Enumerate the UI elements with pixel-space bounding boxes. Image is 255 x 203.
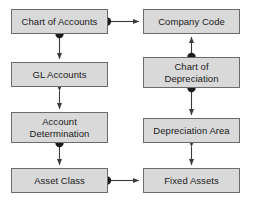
node-company-code-label: Company Code bbox=[156, 16, 227, 28]
node-account-determination-label: Account Determination bbox=[28, 116, 92, 139]
node-asset-class-label: Asset Class bbox=[32, 175, 87, 187]
node-depreciation-area-label: Depreciation Area bbox=[151, 125, 231, 137]
edge-chart-of-depreciation-to-depreciation-area bbox=[187, 84, 195, 115]
node-chart-of-accounts-label: Chart of Accounts bbox=[20, 16, 100, 28]
edge-chart-of-accounts-to-gl-accounts bbox=[55, 30, 63, 59]
node-gl-accounts-label: GL Accounts bbox=[30, 69, 88, 81]
edge-chart-of-accounts-to-company-code bbox=[103, 17, 139, 25]
diagram-canvas: Chart of Accounts Company Code GL Accoun… bbox=[0, 0, 255, 203]
node-fixed-assets[interactable]: Fixed Assets bbox=[143, 168, 240, 193]
node-company-code[interactable]: Company Code bbox=[143, 9, 240, 34]
node-account-determination[interactable]: Account Determination bbox=[11, 112, 108, 143]
node-chart-of-accounts[interactable]: Chart of Accounts bbox=[11, 9, 108, 34]
node-chart-of-depreciation-label: Chart of Depreciation bbox=[163, 61, 221, 84]
node-fixed-assets-label: Fixed Assets bbox=[162, 175, 220, 187]
node-chart-of-depreciation[interactable]: Chart of Depreciation bbox=[143, 57, 240, 88]
node-asset-class[interactable]: Asset Class bbox=[11, 168, 108, 193]
node-depreciation-area[interactable]: Depreciation Area bbox=[143, 118, 240, 143]
edge-asset-class-to-fixed-assets bbox=[103, 176, 139, 184]
node-gl-accounts[interactable]: GL Accounts bbox=[11, 62, 108, 87]
